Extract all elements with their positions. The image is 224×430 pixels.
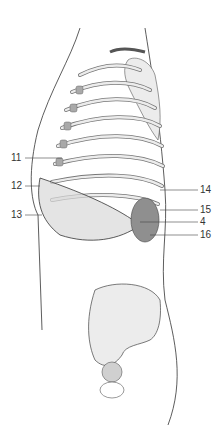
label-15: 15	[200, 205, 211, 215]
label-12: 12	[11, 181, 22, 191]
label-14: 14	[200, 185, 211, 195]
clavicle	[110, 49, 145, 52]
rib-cage	[52, 65, 163, 204]
kidney	[131, 198, 159, 242]
liver	[39, 178, 140, 240]
obturator-foramen	[100, 382, 124, 398]
pelvis-ilium	[89, 284, 161, 365]
label-13: 13	[11, 210, 22, 220]
label-4: 4	[200, 217, 206, 227]
label-16: 16	[200, 230, 211, 240]
costal-cartilages	[56, 86, 83, 166]
label-11: 11	[11, 153, 21, 163]
acetabulum	[102, 362, 122, 382]
anatomy-figure	[0, 0, 224, 430]
